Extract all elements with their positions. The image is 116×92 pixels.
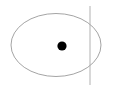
filled-dot-marker [57,41,66,50]
geometry-figure [0,0,116,92]
diagram-canvas [0,0,116,92]
